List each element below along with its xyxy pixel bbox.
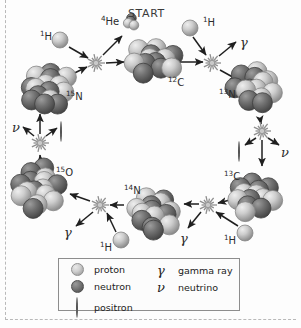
free-proton-bottom-left-element-symbol: H — [105, 242, 113, 253]
legend-neutrino-label: neutrino — [178, 282, 218, 293]
nucleus-oxygen-15-element-symbol: O — [65, 167, 73, 178]
positron-right-symbol — [238, 144, 240, 160]
free-proton-top-right-label: 1H — [203, 16, 215, 28]
burst-right-decay-icon — [254, 122, 271, 140]
nucleus-carbon-12-mass-number: 12 — [168, 75, 177, 84]
nucleus-carbon-13-mass-number: 13 — [224, 169, 233, 178]
free-proton-bottom-right-element-symbol: H — [229, 235, 237, 246]
neutrino-left-symbol: ν — [12, 121, 20, 134]
nucleus-carbon-12-label: 12C — [168, 76, 184, 88]
nucleus-nitrogen-13-element-symbol: N — [228, 89, 235, 100]
burst-bottom-right-icon — [200, 196, 217, 214]
free-proton-top-right-element-symbol: H — [208, 17, 216, 28]
free-proton-bottom-left-label: 1H — [100, 241, 112, 253]
neutrino-right-symbol: ν — [281, 146, 289, 159]
nucleus-helium-4-element-symbol: He — [106, 16, 120, 27]
positron-dot-icon — [60, 121, 62, 142]
legend-proton-label: proton — [94, 264, 125, 275]
nucleus-nitrogen-15-label: 15N — [66, 90, 83, 102]
positron-dot-icon — [238, 141, 240, 162]
neutron-sphere-icon — [67, 280, 87, 293]
legend-neutron-label: neutron — [94, 281, 131, 292]
legend-gamma-ray-label: gamma ray — [178, 265, 233, 276]
start-label: START — [128, 8, 165, 19]
nucleus-nitrogen-15-mass-number: 15 — [66, 89, 75, 98]
legend-gamma-ray: γ gamma ray — [151, 263, 233, 278]
burst-top-right-icon — [204, 54, 221, 72]
nucleus-nitrogen-14-element-symbol: N — [133, 185, 140, 196]
nucleus-helium-4-label: 4He — [101, 15, 119, 27]
nucleus-carbon-13-element-symbol: C — [233, 171, 240, 182]
legend-neutrino: ν neutrino — [151, 280, 218, 295]
positron-dot-icon — [67, 298, 87, 317]
legend-positron-label: positron — [94, 302, 133, 313]
gamma-bottom-left-symbol: γ — [64, 226, 72, 239]
free-proton-bottom-right-label: 1H — [224, 234, 236, 246]
proton-sphere-icon — [67, 263, 87, 276]
nucleus-nitrogen-14-mass-number: 14 — [124, 183, 133, 192]
nucleus-nitrogen-15-element-symbol: N — [75, 91, 82, 102]
free-proton-top-left-element-symbol: H — [45, 31, 53, 42]
nucleus-carbon-13-label: 13C — [224, 170, 240, 182]
burst-bottom-left-icon — [92, 196, 109, 214]
nucleus-carbon-12-element-symbol: C — [177, 77, 184, 88]
nucleus-nitrogen-13-label: 13N — [219, 88, 236, 100]
positron-left-symbol — [60, 124, 62, 140]
legend-positron: positron — [67, 298, 133, 317]
cno-cycle-diagram: 12C13N13C14N15O15N4He1H1H1H1Hγννγγ START… — [0, 0, 301, 328]
nucleus-nitrogen-13-mass-number: 13 — [219, 87, 228, 96]
gamma-icon: γ — [151, 263, 171, 278]
nucleus-nitrogen-14-label: 14N — [124, 184, 141, 196]
burst-left-decay-icon — [32, 134, 49, 152]
burst-top-left-icon — [88, 54, 105, 72]
nucleus-oxygen-15-mass-number: 15 — [56, 165, 65, 174]
gamma-bottom-right-symbol: γ — [180, 232, 188, 245]
gamma-top-right-symbol: γ — [240, 36, 248, 49]
free-proton-top-left-label: 1H — [40, 30, 52, 42]
legend-proton: proton — [67, 263, 125, 276]
nucleus-oxygen-15-label: 15O — [56, 166, 73, 178]
legend-box: proton neutron positron γ gamma ray — [58, 258, 240, 311]
legend-neutron: neutron — [67, 280, 131, 293]
neutrino-icon: ν — [151, 280, 171, 295]
